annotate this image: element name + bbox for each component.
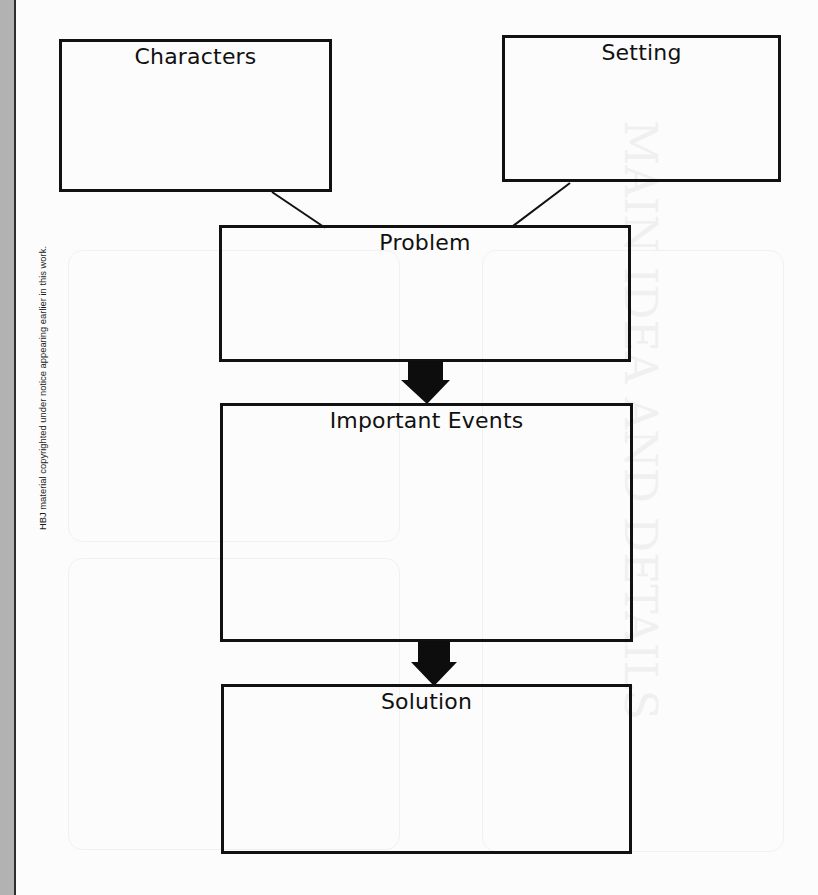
important-events-label: Important Events bbox=[223, 408, 630, 433]
page-margin-strip bbox=[0, 0, 14, 895]
solution-label: Solution bbox=[224, 689, 629, 714]
problem-box[interactable]: Problem bbox=[219, 225, 631, 362]
characters-box[interactable]: Characters bbox=[59, 39, 332, 192]
page-title: STORY MAP bbox=[260, 0, 560, 6]
setting-box[interactable]: Setting bbox=[502, 35, 781, 182]
arrow-down-icon bbox=[400, 361, 452, 405]
solution-box[interactable]: Solution bbox=[221, 684, 632, 854]
setting-label: Setting bbox=[505, 40, 778, 65]
problem-label: Problem bbox=[222, 230, 628, 255]
copyright-notice: HBJ material copyrighted under notice ap… bbox=[37, 246, 48, 530]
characters-label: Characters bbox=[62, 44, 329, 69]
important-events-box[interactable]: Important Events bbox=[220, 403, 633, 642]
arrow-down-icon bbox=[410, 641, 460, 687]
title-clip: STORY MAP bbox=[260, 0, 560, 6]
